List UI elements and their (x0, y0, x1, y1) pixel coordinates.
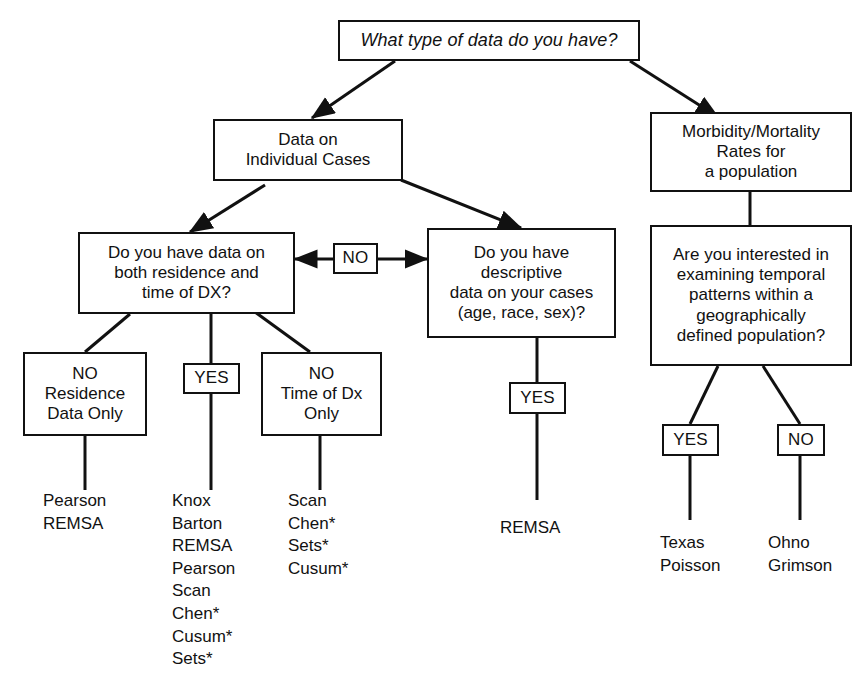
node-no-residence-only-label: NO Residence Data Only (41, 364, 129, 424)
node-yes-both[interactable]: YES (183, 363, 240, 394)
edge-individual-to-residence (190, 185, 265, 232)
node-no-connector-label: NO (339, 248, 373, 268)
node-residence-time-question-label: Do you have data on both residence and t… (104, 243, 269, 303)
node-no-residence-only[interactable]: NO Residence Data Only (23, 352, 147, 436)
node-rates-population-label: Morbidity/Mortality Rates for a populati… (678, 122, 824, 182)
edge-individual-to-descriptive (401, 180, 521, 228)
edge-root-to-rates (630, 61, 718, 117)
node-residence-time-question[interactable]: Do you have data on both residence and t… (78, 232, 295, 314)
leaf-descriptive-methods: REMSA (500, 517, 560, 540)
node-no-time-only-label: NO Time of Dx Only (277, 364, 367, 424)
flowchart-canvas: What type of data do you have? Data on I… (0, 0, 863, 679)
edge-root-to-individual (312, 61, 395, 118)
node-yes-both-label: YES (190, 368, 233, 388)
node-individual-cases-label: Data on Individual Cases (242, 130, 375, 170)
leaf-time-only-methods: Scan Chen* Sets* Cusum* (288, 490, 348, 580)
node-root-question[interactable]: What type of data do you have? (338, 20, 640, 61)
node-descriptive-question[interactable]: Do you have descriptive data on your cas… (427, 228, 616, 338)
node-no-connector[interactable]: NO (333, 243, 378, 274)
edge-temporal-to-yes (690, 366, 718, 424)
node-yes-descriptive[interactable]: YES (509, 382, 566, 414)
leaf-residence-only-methods: Pearson REMSA (43, 490, 106, 535)
node-no-temporal-label: NO (784, 430, 818, 450)
node-yes-temporal-label: YES (669, 430, 712, 450)
node-rates-population[interactable]: Morbidity/Mortality Rates for a populati… (650, 112, 852, 192)
leaf-both-methods: Knox Barton REMSA Pearson Scan Chen* Cus… (172, 490, 235, 671)
leaf-temporal-yes-methods: Texas Poisson (660, 532, 720, 577)
edge-temporal-to-no (763, 366, 800, 424)
node-temporal-question[interactable]: Are you interested in examining temporal… (650, 225, 852, 366)
node-temporal-question-label: Are you interested in examining temporal… (669, 245, 833, 345)
node-root-question-label: What type of data do you have? (356, 30, 621, 51)
node-descriptive-question-label: Do you have descriptive data on your cas… (446, 243, 598, 323)
node-yes-temporal[interactable]: YES (662, 424, 719, 456)
node-no-temporal[interactable]: NO (777, 424, 825, 456)
node-no-time-only[interactable]: NO Time of Dx Only (261, 352, 382, 436)
leaf-temporal-no-methods: Ohno Grimson (768, 532, 832, 577)
edge-residence-to-no-residence (85, 314, 130, 352)
edge-residence-to-no-time (255, 312, 310, 352)
node-yes-descriptive-label: YES (516, 388, 559, 408)
node-individual-cases[interactable]: Data on Individual Cases (213, 119, 403, 181)
